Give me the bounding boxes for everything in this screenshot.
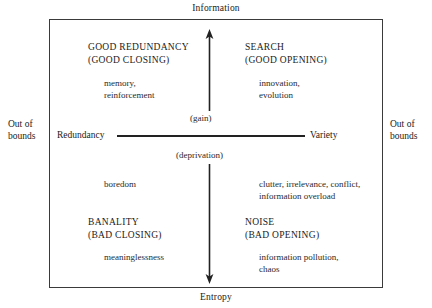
arrow-down-icon bbox=[203, 164, 216, 284]
quadrant-top-right-heading: SEARCH (GOOD OPENING) bbox=[245, 41, 327, 66]
quadrant-bottom-right-example-lower-1: information pollution, bbox=[259, 252, 339, 264]
quadrant-bottom-left-example-upper: boredom bbox=[104, 179, 136, 191]
out-of-bounds-right-line2: bounds bbox=[390, 131, 417, 143]
out-of-bounds-left-line1: Out of bbox=[8, 119, 35, 131]
horizontal-axis-line bbox=[117, 135, 305, 137]
quadrant-bottom-right-lower-examples: information pollution, chaos bbox=[259, 252, 339, 275]
quadrant-top-left-subtitle: (GOOD CLOSING) bbox=[88, 54, 189, 67]
axis-label-information: Information bbox=[0, 3, 432, 13]
quadrant-bottom-left-heading: BANALITY (BAD CLOSING) bbox=[88, 216, 162, 241]
quadrant-bottom-right-example-upper-1: clutter, irrelevance, conflict, bbox=[259, 179, 360, 191]
quadrant-bottom-left-lower-examples: meaninglessness bbox=[104, 252, 164, 264]
axis-label-entropy: Entropy bbox=[0, 292, 432, 302]
quadrant-bottom-left-example-lower: meaninglessness bbox=[104, 252, 164, 264]
quadrant-top-left-title: GOOD REDUNDANCY bbox=[88, 41, 189, 54]
axis-label-redundancy: Redundancy bbox=[57, 130, 105, 140]
out-of-bounds-left-line2: bounds bbox=[8, 131, 35, 143]
quadrant-top-left-examples: memory, reinforcement bbox=[104, 78, 154, 101]
quadrant-top-left-heading: GOOD REDUNDANCY (GOOD CLOSING) bbox=[88, 41, 189, 66]
quadrant-bottom-right-example-upper-2: information overload bbox=[259, 191, 360, 203]
quadrant-top-left-example-1: memory, bbox=[104, 78, 154, 90]
out-of-bounds-right: Out of bounds bbox=[390, 119, 417, 142]
quadrant-top-left-example-2: reinforcement bbox=[104, 90, 154, 102]
quadrant-bottom-right-heading: NOISE (BAD OPENING) bbox=[245, 216, 319, 241]
arrow-up-icon bbox=[203, 29, 216, 111]
out-of-bounds-right-line1: Out of bbox=[390, 119, 417, 131]
diagram-canvas: Information Out of bounds Out of bounds … bbox=[0, 0, 432, 308]
quadrant-top-right-subtitle: (GOOD OPENING) bbox=[245, 54, 327, 67]
quadrant-bottom-right-upper-examples: clutter, irrelevance, conflict, informat… bbox=[259, 179, 360, 202]
quadrant-bottom-left-upper-examples: boredom bbox=[104, 179, 136, 191]
axis-note-gain: (gain) bbox=[190, 113, 212, 123]
quadrant-bottom-left-subtitle: (BAD CLOSING) bbox=[88, 229, 162, 242]
axis-note-deprivation: (deprivation) bbox=[176, 150, 223, 160]
quadrant-bottom-right-example-lower-2: chaos bbox=[259, 264, 339, 276]
quadrant-top-right-example-1: innovation, bbox=[259, 78, 300, 90]
quadrant-top-right-example-2: evolution bbox=[259, 90, 300, 102]
quadrant-bottom-right-title: NOISE bbox=[245, 216, 319, 229]
quadrant-top-right-title: SEARCH bbox=[245, 41, 327, 54]
out-of-bounds-left: Out of bounds bbox=[8, 119, 35, 142]
quadrant-bottom-right-subtitle: (BAD OPENING) bbox=[245, 229, 319, 242]
quadrant-bottom-left-title: BANALITY bbox=[88, 216, 162, 229]
axis-label-variety: Variety bbox=[310, 130, 337, 140]
quadrant-top-right-examples: innovation, evolution bbox=[259, 78, 300, 101]
